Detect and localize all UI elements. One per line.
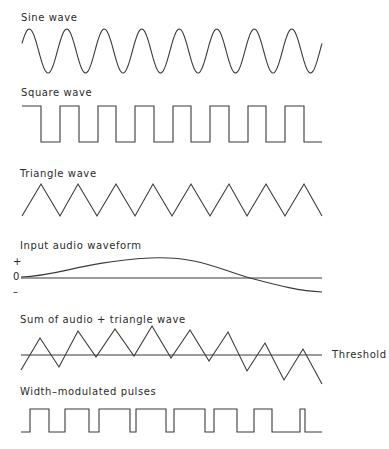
square-wave	[22, 106, 322, 142]
waveform-diagram	[0, 0, 389, 449]
triangle-wave	[22, 184, 322, 216]
sine-wave	[22, 29, 322, 73]
pwm-pulses	[21, 409, 322, 432]
audio-waveform	[21, 258, 322, 292]
